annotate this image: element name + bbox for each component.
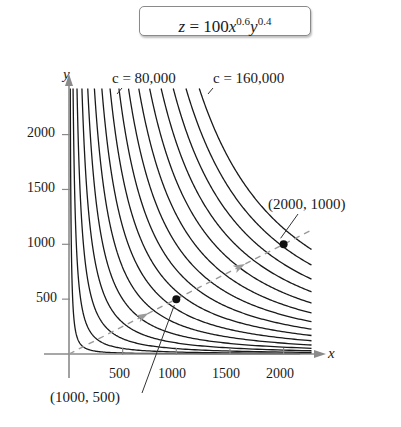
y-tick-500: 500 (36, 290, 57, 306)
x-tick-500: 500 (109, 366, 130, 382)
level-curve (161, 89, 311, 292)
label-point-1000-500: (1000, 500) (50, 389, 120, 406)
level-curve (94, 89, 311, 345)
data-point (172, 295, 180, 303)
x-axis-label: x (328, 345, 335, 362)
x-axis-arrow-icon (314, 350, 326, 358)
label-point-2000-1000: (2000, 1000) (268, 196, 346, 213)
level-curve (199, 89, 311, 250)
x-tick-2000: 2000 (266, 366, 294, 382)
label-c-160000: c = 160,000 (213, 70, 284, 87)
formula-box: z = 100x0.6y0.4 (139, 6, 311, 36)
data-points (117, 88, 298, 393)
y-tick-1500: 1500 (27, 180, 55, 196)
label-c-80000: c = 80,000 (112, 70, 176, 87)
formula-exp-x: 0.6 (236, 15, 250, 27)
formula-exp-y: 0.4 (258, 15, 272, 27)
formula-y: y (250, 17, 258, 36)
level-curve (186, 89, 312, 265)
y-tick-2000: 2000 (27, 125, 55, 141)
data-point (280, 240, 288, 248)
level-curves (70, 89, 311, 354)
y-axis-label: y (63, 66, 70, 83)
formula-coef: = 100 (185, 17, 229, 36)
x-tick-1000: 1000 (158, 366, 186, 382)
level-curve-plot (0, 0, 401, 427)
y-tick-1000: 1000 (27, 235, 55, 251)
expansion-path (69, 230, 311, 354)
x-tick-1500: 1500 (212, 366, 240, 382)
